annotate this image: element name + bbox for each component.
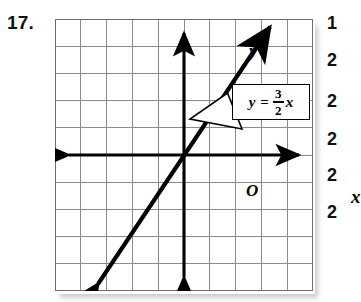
equation-equals-sign: =: [257, 95, 272, 110]
fraction-numerator: 3: [273, 87, 284, 101]
origin-label: O: [246, 182, 258, 199]
fraction-denominator: 2: [273, 103, 284, 117]
x-axis-label: x: [351, 187, 361, 206]
equation-lhs: y: [249, 95, 258, 110]
equation-callout-box: y = 3 2 x: [232, 84, 310, 120]
margin-number: 1: [327, 14, 347, 32]
equation-text: y = 3 2 x: [249, 87, 294, 117]
equation-fraction: 3 2: [273, 87, 284, 117]
equation-variable: x: [285, 95, 294, 110]
margin-number: 2: [327, 92, 347, 110]
coordinate-graph-figure: y x O: [55, 19, 313, 291]
y-axis-label: y: [249, 41, 257, 60]
problem-number: 17.: [7, 13, 34, 32]
margin-number: 2: [327, 130, 347, 148]
margin-number-list: 1 2 2 2 2 2: [327, 14, 347, 221]
margin-number: 2: [327, 51, 347, 69]
graph-plot: [55, 19, 313, 291]
margin-number: 2: [327, 203, 347, 221]
margin-number: 2: [327, 166, 347, 184]
